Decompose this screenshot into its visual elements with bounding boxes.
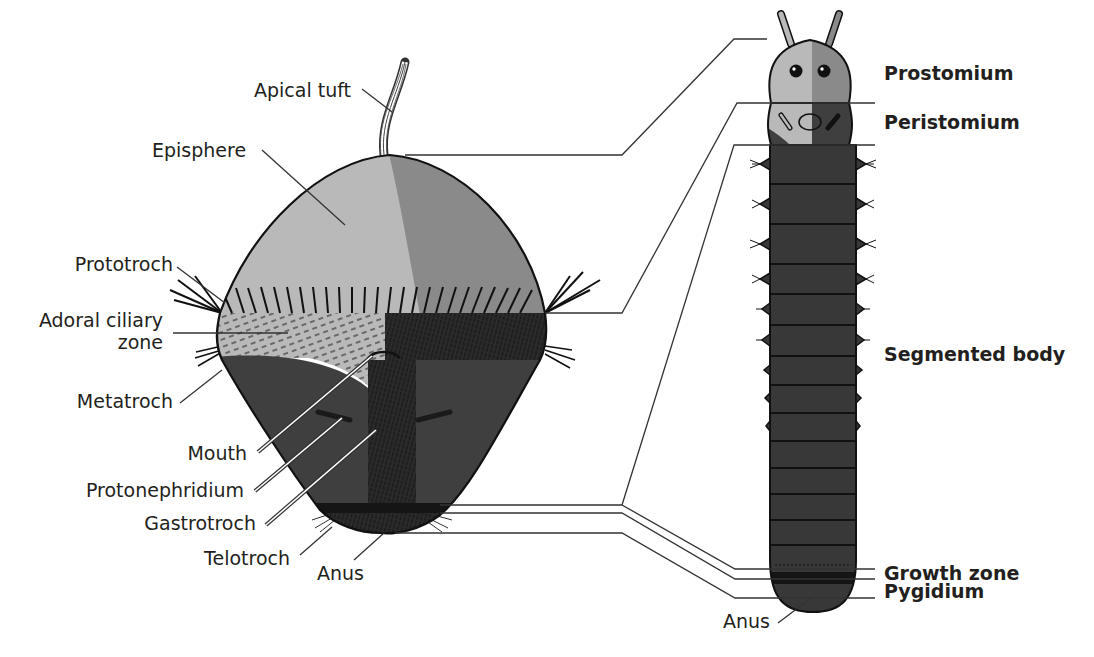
label-telotroch: Telotroch <box>203 547 290 569</box>
label-segmented-body: Segmented body <box>884 343 1066 365</box>
label-adoral-ciliary-zone: Adoral ciliary <box>39 309 163 331</box>
label-mouth: Mouth <box>187 442 247 464</box>
label-protonephridium: Protonephridium <box>86 479 244 501</box>
diagram-canvas: Apical tuft Episphere Prototroch Adoral … <box>0 0 1094 657</box>
segmented-worm <box>750 14 876 615</box>
label-prostomium: Prostomium <box>884 62 1013 84</box>
diagram-svg: Apical tuft Episphere Prototroch Adoral … <box>0 0 1094 657</box>
label-anus-larva: Anus <box>317 562 364 584</box>
label-anus-worm: Anus <box>723 610 770 632</box>
apical-tuft-icon <box>380 62 406 155</box>
label-pygidium: Pygidium <box>884 580 984 602</box>
eye-icon <box>818 65 831 78</box>
label-adoral-ciliary-zone-2: zone <box>118 331 163 353</box>
label-gastrotroch: Gastrotroch <box>144 512 256 534</box>
label-prototroch: Prototroch <box>75 253 173 275</box>
label-metatroch: Metatroch <box>77 390 173 412</box>
label-peristomium: Peristomium <box>884 111 1020 133</box>
label-apical-tuft: Apical tuft <box>254 79 351 101</box>
eye-icon <box>790 65 803 78</box>
label-episphere: Episphere <box>152 139 246 161</box>
